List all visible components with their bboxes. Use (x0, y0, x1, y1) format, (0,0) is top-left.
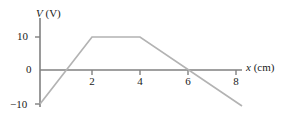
x-tick-label-2: 2 (87, 76, 97, 87)
x-tick-label-8: 8 (231, 76, 241, 87)
y-tick-label-neg10: −10 (10, 99, 27, 110)
x-tick-label-4: 4 (135, 76, 145, 87)
voltage-plot-line (40, 37, 242, 106)
y-axis-symbol: V (36, 7, 43, 19)
x-axis-title: x (cm) (246, 62, 274, 73)
x-tick-label-6: 6 (183, 76, 193, 87)
y-axis-unit: (V) (45, 7, 60, 19)
y-tick-label-10: 10 (17, 31, 28, 42)
x-axis-unit: (cm) (254, 61, 275, 73)
voltage-vs-position-figure: V (V) x (cm) 10 0 −10 2 4 6 8 (0, 0, 294, 120)
y-tick-label-0: 0 (26, 64, 32, 75)
y-axis-title: V (V) (36, 8, 61, 19)
